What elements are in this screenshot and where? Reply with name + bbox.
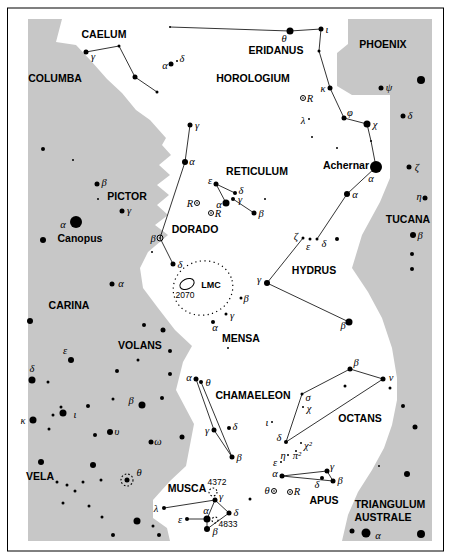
star bbox=[370, 161, 382, 173]
star bbox=[86, 404, 90, 408]
lmc-label: LMC bbox=[201, 280, 221, 290]
greek-star-label: β bbox=[149, 233, 156, 244]
constellation-label-carina: CARINA bbox=[49, 299, 90, 311]
greek-star-label: α bbox=[162, 60, 168, 71]
greek-star-label: θ bbox=[136, 467, 141, 478]
star bbox=[93, 433, 97, 437]
greek-star-label: π² bbox=[293, 450, 302, 461]
star-name-label-canopus: Canopus bbox=[58, 232, 103, 244]
star bbox=[287, 28, 294, 35]
greek-star-label: α bbox=[203, 505, 209, 516]
star bbox=[185, 517, 189, 521]
star bbox=[348, 367, 353, 372]
star bbox=[300, 442, 302, 444]
greek-star-label: α bbox=[352, 189, 358, 200]
star bbox=[74, 490, 77, 493]
star bbox=[362, 529, 371, 538]
star bbox=[271, 421, 273, 423]
variable-star-symbol-dot bbox=[302, 97, 304, 99]
constellation-label-phoenix: PHOENIX bbox=[359, 38, 406, 50]
star bbox=[152, 525, 155, 528]
greek-star-label: θ bbox=[205, 377, 210, 388]
greek-star-label: ψ bbox=[386, 82, 393, 93]
greek-star-label: λ bbox=[300, 115, 306, 126]
greek-star-label: ζ bbox=[415, 162, 420, 174]
star-name-label-achernar: Achernar bbox=[323, 159, 369, 171]
star bbox=[401, 404, 405, 408]
greek-star-label: β bbox=[235, 452, 242, 463]
star bbox=[378, 465, 380, 467]
star bbox=[38, 459, 44, 465]
greek-star-label: χ bbox=[372, 119, 378, 130]
star bbox=[84, 50, 89, 55]
greek-star-label: ω bbox=[154, 436, 161, 447]
star-chart-page: LMCCAELUMCOLUMBAERIDANUSPHOENIXHOROLOGIU… bbox=[0, 0, 451, 560]
star bbox=[344, 385, 347, 388]
star bbox=[350, 529, 355, 534]
star bbox=[331, 479, 336, 484]
star bbox=[169, 62, 174, 67]
star bbox=[204, 516, 211, 523]
star bbox=[182, 159, 188, 165]
star bbox=[133, 75, 138, 80]
greek-star-label: R bbox=[306, 93, 314, 104]
star bbox=[47, 381, 50, 384]
star bbox=[249, 498, 252, 501]
star bbox=[318, 50, 321, 53]
greek-star-label: β bbox=[100, 177, 107, 188]
star bbox=[336, 147, 338, 149]
ngc-number-label: 2070 bbox=[176, 290, 195, 300]
greek-star-label: υ bbox=[115, 426, 120, 437]
star bbox=[233, 191, 237, 195]
star bbox=[379, 86, 384, 91]
greek-star-label: β bbox=[336, 475, 343, 486]
star bbox=[407, 165, 412, 170]
star bbox=[370, 140, 372, 142]
constellation-label-horologium: HOROLOGIUM bbox=[216, 72, 290, 84]
star bbox=[212, 428, 217, 433]
constellation-label-apus: APUS bbox=[309, 494, 338, 506]
star bbox=[199, 380, 203, 384]
constellation-label-australe: AUSTRALE bbox=[354, 511, 411, 523]
star bbox=[157, 533, 161, 537]
star bbox=[120, 209, 125, 214]
star bbox=[151, 251, 153, 253]
ngc-number-label: 4372 bbox=[208, 477, 227, 487]
star-chart-svg: LMCCAELUMCOLUMBAERIDANUSPHOENIXHOROLOGIU… bbox=[0, 0, 451, 560]
greek-star-label: β bbox=[127, 395, 134, 406]
star bbox=[161, 328, 166, 333]
star bbox=[410, 252, 414, 256]
star bbox=[308, 118, 310, 120]
star bbox=[264, 280, 270, 286]
greek-star-label: α bbox=[212, 322, 218, 333]
star bbox=[72, 159, 74, 161]
greek-star-label: α bbox=[186, 372, 192, 383]
star bbox=[139, 402, 146, 409]
star bbox=[417, 530, 425, 538]
star bbox=[320, 476, 324, 480]
star bbox=[413, 425, 418, 430]
star bbox=[381, 377, 386, 382]
greek-star-label: θ bbox=[281, 33, 286, 44]
star bbox=[417, 76, 425, 84]
star bbox=[168, 372, 172, 376]
star bbox=[95, 182, 100, 187]
star bbox=[68, 357, 74, 363]
greek-star-label: ι bbox=[74, 409, 77, 420]
star bbox=[214, 182, 219, 187]
star bbox=[287, 454, 289, 456]
greek-star-label: χ² bbox=[303, 440, 313, 451]
star bbox=[204, 526, 210, 532]
star bbox=[325, 469, 330, 474]
greek-star-label: λ bbox=[153, 503, 159, 514]
greek-star-label: ζ bbox=[294, 231, 299, 243]
greek-star-label: α bbox=[368, 173, 374, 184]
greek-star-label: α bbox=[60, 219, 66, 230]
greek-star-label: θ bbox=[264, 485, 269, 496]
star bbox=[66, 484, 69, 487]
greek-star-label: η bbox=[280, 450, 285, 461]
star bbox=[168, 349, 172, 353]
star bbox=[344, 191, 350, 197]
ngc-number-label: 4833 bbox=[219, 519, 238, 529]
star bbox=[60, 406, 63, 409]
